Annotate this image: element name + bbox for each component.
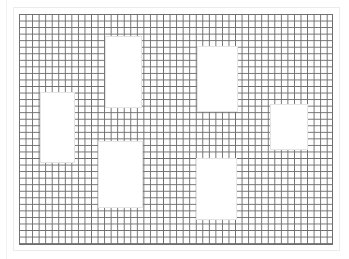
hole-right (270, 104, 308, 150)
page-edge-line (6, 0, 7, 259)
hole-bottom-right-center (196, 158, 237, 220)
hole-top-left-center (105, 36, 142, 108)
hole-top-right-center (197, 46, 238, 112)
hole-bottom-left-center (98, 141, 143, 208)
hole-left (40, 92, 75, 163)
